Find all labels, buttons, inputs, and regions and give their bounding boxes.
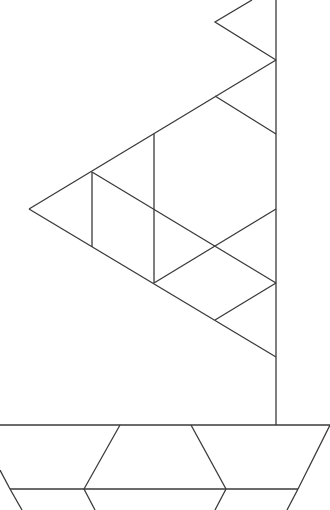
pennant-flag: [215, 0, 276, 60]
hull-edge: [215, 489, 226, 510]
hull-edge: [191, 425, 226, 489]
hull-edge: [84, 489, 95, 510]
hull-edge: [298, 425, 330, 489]
sail-edge: [215, 283, 276, 320]
hull-edge: [10, 489, 22, 510]
hull-edge: [84, 425, 120, 489]
hull-edge: [0, 470, 10, 489]
hull-edge: [287, 489, 298, 510]
sail-triangles: [29, 60, 276, 357]
sail-edge: [29, 60, 276, 209]
sail-edge: [92, 172, 276, 283]
sail-edge: [215, 96, 276, 134]
pennant-line: [215, 0, 276, 60]
sailboat-diagram: [0, 0, 330, 510]
hull: [0, 425, 330, 510]
